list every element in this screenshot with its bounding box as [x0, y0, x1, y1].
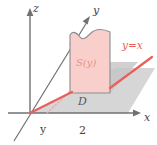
tick-label-2: 2 — [79, 124, 86, 137]
figure-canvas: z y x y 2 D S(y) y=x — [0, 0, 157, 145]
region-d-label: D — [77, 95, 87, 108]
y-axis-label: y — [92, 4, 100, 17]
z-axis-label: z — [32, 2, 39, 15]
cross-section-label: S(y) — [76, 57, 96, 68]
math-figure: z y x y 2 D S(y) y=x — [0, 0, 157, 145]
x-axis-label: x — [144, 111, 151, 124]
line-label-y-equals-x: y=x — [121, 39, 143, 51]
y-axis-arrowhead — [83, 16, 90, 24]
tick-label-y: y — [39, 123, 47, 136]
x-axis-arrowhead — [133, 110, 141, 117]
